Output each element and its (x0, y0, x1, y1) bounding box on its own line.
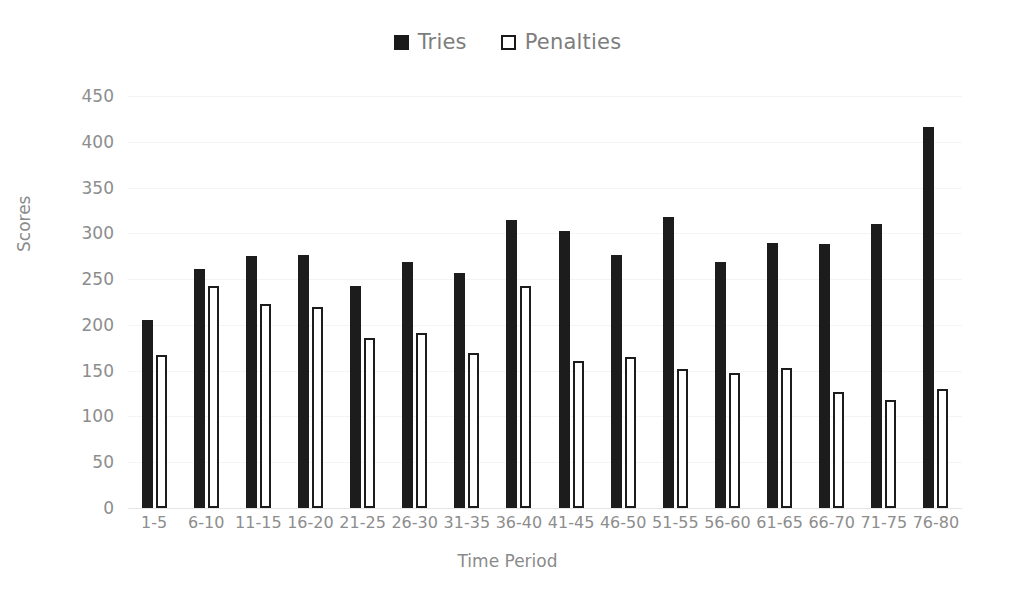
bar-group (858, 96, 910, 508)
plot-area (128, 96, 962, 508)
x-tick-label: 46-50 (597, 513, 649, 532)
bar-chart-figure: Tries Penalties Scores 05010015020025030… (0, 0, 1015, 598)
bar-penalties[interactable] (468, 353, 479, 508)
legend-label-penalties: Penalties (525, 30, 622, 54)
bar-tries[interactable] (611, 255, 622, 508)
bar-group (389, 96, 441, 508)
x-tick-label: 6-10 (180, 513, 232, 532)
bar-penalties[interactable] (885, 400, 896, 508)
x-tick-label: 1-5 (128, 513, 180, 532)
bar-tries[interactable] (506, 220, 517, 508)
bar-penalties[interactable] (677, 369, 688, 508)
bar-tries[interactable] (142, 320, 153, 508)
bar-penalties[interactable] (833, 392, 844, 508)
x-tick-label: 11-15 (232, 513, 284, 532)
filled-square-icon (394, 35, 409, 50)
x-axis-title: Time Period (0, 551, 1015, 571)
x-tick-label: 76-80 (910, 513, 962, 532)
bar-group (180, 96, 232, 508)
bar-group (806, 96, 858, 508)
bar-tries[interactable] (871, 224, 882, 508)
bar-penalties[interactable] (573, 361, 584, 508)
bar-group (701, 96, 753, 508)
bar-penalties[interactable] (260, 304, 271, 508)
legend-entry-tries: Tries (394, 30, 467, 54)
bar-group (232, 96, 284, 508)
legend-label-tries: Tries (418, 30, 467, 54)
bar-penalties[interactable] (416, 333, 427, 508)
y-tick-label: 50 (92, 452, 114, 472)
y-tick-label: 150 (82, 361, 114, 381)
bar-group (910, 96, 962, 508)
x-tick-label: 41-45 (545, 513, 597, 532)
bar-group (493, 96, 545, 508)
bar-group (128, 96, 180, 508)
bar-tries[interactable] (819, 244, 830, 508)
bar-group (337, 96, 389, 508)
x-tick-label: 61-65 (754, 513, 806, 532)
bar-group (545, 96, 597, 508)
bar-penalties[interactable] (781, 368, 792, 508)
x-axis-ticks: 1-56-1011-1516-2021-2526-3031-3536-4041-… (128, 513, 962, 532)
x-tick-label: 66-70 (806, 513, 858, 532)
bar-tries[interactable] (767, 243, 778, 508)
bar-penalties[interactable] (520, 286, 531, 508)
bar-tries[interactable] (246, 256, 257, 508)
bar-penalties[interactable] (312, 307, 323, 508)
y-tick-label: 350 (82, 178, 114, 198)
bar-tries[interactable] (194, 269, 205, 508)
bar-group (754, 96, 806, 508)
bar-penalties[interactable] (937, 389, 948, 508)
bar-tries[interactable] (559, 231, 570, 508)
bar-tries[interactable] (663, 217, 674, 508)
y-tick-label: 200 (82, 315, 114, 335)
x-tick-label: 51-55 (649, 513, 701, 532)
bar-tries[interactable] (923, 127, 934, 508)
y-tick-label: 400 (82, 132, 114, 152)
bar-tries[interactable] (350, 286, 361, 508)
x-axis-line (128, 508, 962, 509)
y-axis-ticks: 050100150200250300350400450 (0, 96, 128, 508)
bar-tries[interactable] (298, 255, 309, 508)
bar-penalties[interactable] (364, 338, 375, 508)
bar-group (284, 96, 336, 508)
bar-tries[interactable] (402, 262, 413, 508)
bar-penalties[interactable] (729, 373, 740, 508)
bar-group (441, 96, 493, 508)
bar-penalties[interactable] (625, 357, 636, 508)
bar-group (597, 96, 649, 508)
y-tick-label: 0 (103, 498, 114, 518)
bar-penalties[interactable] (208, 286, 219, 508)
x-tick-label: 16-20 (284, 513, 336, 532)
bar-penalties[interactable] (156, 355, 167, 508)
bar-tries[interactable] (715, 262, 726, 508)
y-tick-label: 250 (82, 269, 114, 289)
x-tick-label: 21-25 (337, 513, 389, 532)
y-tick-label: 300 (82, 223, 114, 243)
y-tick-label: 450 (82, 86, 114, 106)
chart-legend: Tries Penalties (0, 30, 1015, 54)
bar-tries[interactable] (454, 273, 465, 508)
x-tick-label: 36-40 (493, 513, 545, 532)
x-tick-label: 26-30 (389, 513, 441, 532)
x-tick-label: 31-35 (441, 513, 493, 532)
x-tick-label: 56-60 (701, 513, 753, 532)
hollow-square-icon (501, 35, 516, 50)
x-tick-label: 71-75 (858, 513, 910, 532)
bar-group (649, 96, 701, 508)
legend-entry-penalties: Penalties (501, 30, 622, 54)
bar-groups (128, 96, 962, 508)
y-tick-label: 100 (82, 406, 114, 426)
